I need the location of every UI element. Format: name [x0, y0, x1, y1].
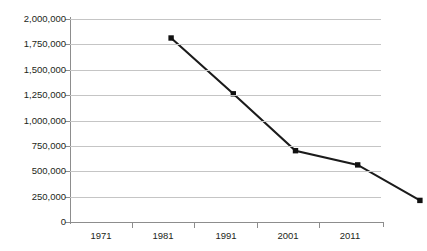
- gridline: [70, 70, 381, 71]
- y-axis-tick-label: 2,000,000: [0, 14, 66, 24]
- series-layer: [70, 19, 427, 251]
- x-axis-tick-label: 2011: [310, 230, 390, 241]
- gridline: [70, 197, 381, 198]
- data-point-marker: [417, 198, 422, 203]
- y-axis-tick-label: 1,250,000: [0, 90, 66, 100]
- gridline: [70, 121, 381, 122]
- gridline: [70, 19, 381, 20]
- clipped-chart-title: [0, 0, 395, 3]
- y-axis-tick-label: 0: [0, 217, 66, 227]
- x-axis-tick: [132, 223, 133, 228]
- data-point-marker: [168, 35, 173, 40]
- y-axis-tick-label: 1,500,000: [0, 65, 66, 75]
- series-line: [171, 38, 420, 200]
- gridline: [70, 171, 381, 172]
- x-axis-tick: [319, 223, 320, 228]
- gridline: [70, 44, 381, 45]
- x-axis-tick: [257, 223, 258, 228]
- y-axis-tick-label: 1,000,000: [0, 116, 66, 126]
- y-axis-tick-label: 250,000: [0, 192, 66, 202]
- gridline: [70, 146, 381, 147]
- y-axis-tick-label: 1,750,000: [0, 39, 66, 49]
- data-point-marker: [293, 148, 298, 153]
- x-axis-line: [70, 222, 384, 223]
- y-axis-tick-label: 500,000: [0, 166, 66, 176]
- data-point-marker: [355, 162, 360, 167]
- x-axis-tick: [194, 223, 195, 228]
- y-axis-tick-label: 750,000: [0, 141, 66, 151]
- gridline: [70, 95, 381, 96]
- x-axis-end-tick: [383, 222, 384, 227]
